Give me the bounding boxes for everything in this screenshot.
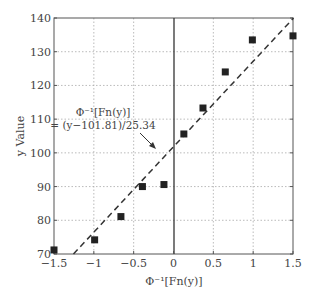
- data-point-square: [91, 236, 98, 243]
- y-tick-label: 130: [30, 46, 51, 59]
- data-point-square: [290, 32, 297, 39]
- y-axis-ticks: 708090100110120130140: [30, 12, 293, 261]
- x-tick-label: 0: [170, 257, 177, 270]
- x-axis-label: Φ⁻¹[Fn(y)]: [145, 275, 202, 288]
- data-point-square: [139, 183, 146, 190]
- data-point-square: [160, 181, 167, 188]
- y-tick-label: 80: [37, 214, 51, 227]
- x-tick-label: 0.5: [205, 257, 223, 270]
- data-point-square: [51, 246, 58, 253]
- y-axis-label: y Value: [14, 116, 27, 157]
- data-point-square: [249, 36, 256, 43]
- data-point-square: [199, 105, 206, 112]
- x-tick-label: 1.5: [284, 257, 302, 270]
- x-tick-label: −1.5: [41, 257, 68, 270]
- y-tick-label: 140: [30, 12, 51, 25]
- annotation-line2: = (y−101.81)/25.34: [50, 119, 156, 131]
- data-point-square: [180, 130, 187, 137]
- x-tick-label: −1: [86, 257, 102, 270]
- y-tick-label: 110: [30, 113, 51, 126]
- y-tick-label: 90: [37, 181, 51, 194]
- data-point-square: [117, 213, 124, 220]
- qq-plot-chart: 708090100110120130140 −1.5−1−0.500.511.5…: [0, 0, 312, 301]
- annotation-line1: Φ⁻¹[Fn(y)]: [76, 106, 131, 118]
- x-tick-label: 1: [250, 257, 257, 270]
- y-tick-label: 120: [30, 79, 51, 92]
- x-tick-label: −0.5: [120, 257, 147, 270]
- data-point-square: [222, 68, 229, 75]
- y-tick-label: 100: [30, 147, 51, 160]
